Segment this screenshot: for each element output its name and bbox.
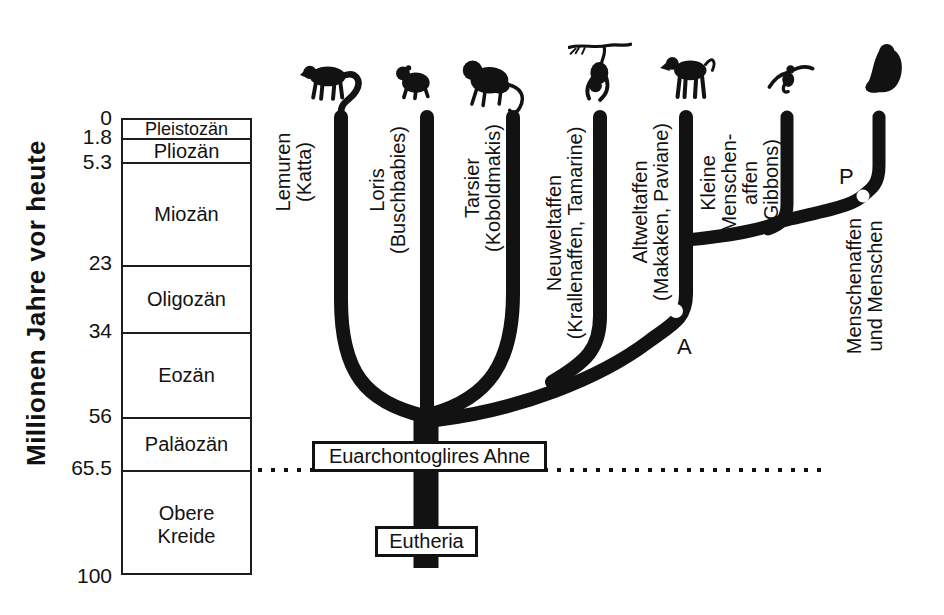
- lemur-silhouette-icon: [299, 50, 367, 116]
- epoch-palaeozaen: Paläozän: [123, 417, 250, 470]
- node-a-dot: [669, 304, 683, 318]
- node-p-dot: [857, 190, 870, 203]
- node-p-label: P: [839, 166, 854, 188]
- new-world-monkey-silhouette-icon: [568, 28, 632, 118]
- epoch-miozaen: Miozän: [123, 162, 250, 265]
- tick-34: 34: [50, 320, 112, 342]
- gibbon-silhouette-icon: [744, 52, 838, 98]
- baboon-silhouette-icon: [650, 46, 726, 104]
- chimpanzee-silhouette-icon: [849, 40, 913, 98]
- epoch-pleistozaen: Pleistozän: [123, 120, 250, 138]
- tick-1-8: 1.8: [50, 126, 112, 148]
- phylogeny-figure: Millionen Jahre vor heute 0 1.8 5.3 23 3…: [0, 0, 944, 615]
- node-a-label: A: [677, 336, 692, 358]
- tick-23: 23: [50, 252, 112, 274]
- epoch-pliozaen: Pliozän: [123, 138, 250, 162]
- epoch-eozaen: Eozän: [123, 332, 250, 417]
- axis-title: Millionen Jahre vor heute: [26, 140, 47, 466]
- euarchontoglires-ahne-box: Euarchontoglires Ahne: [312, 441, 547, 472]
- tick-65-5: 65.5: [50, 457, 112, 479]
- epoch-oligozaen: Oligozän: [123, 265, 250, 332]
- loris-silhouette-icon: [384, 56, 444, 102]
- epoch-column: Pleistozän Pliozän Miozän Oligozän Eozän…: [121, 118, 252, 575]
- eutheria-box: Eutheria: [375, 526, 478, 557]
- tick-5-3: 5.3: [50, 151, 112, 173]
- branch-menschenaffen: [782, 117, 879, 221]
- tick-56: 56: [50, 405, 112, 427]
- epoch-obere-kreide: Obere Kreide: [123, 470, 250, 577]
- tarsier-silhouette-icon: [455, 48, 535, 118]
- tick-100: 100: [50, 565, 112, 587]
